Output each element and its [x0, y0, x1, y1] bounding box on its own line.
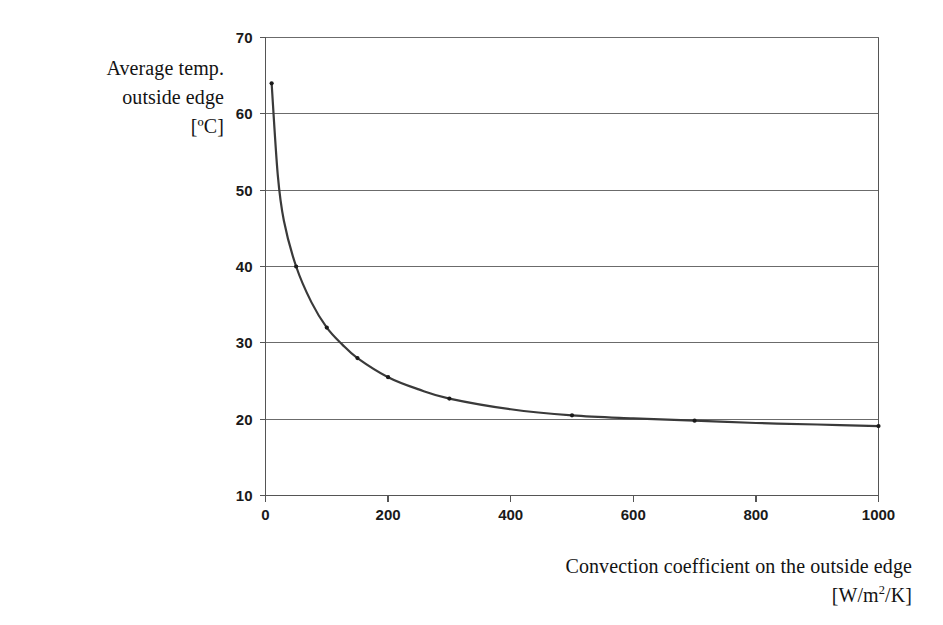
data-point-marker	[294, 264, 298, 268]
tick-marks-group	[260, 38, 879, 502]
y-tick-label: 70	[236, 29, 253, 46]
data-point-marker	[693, 419, 697, 423]
gridlines-group	[266, 38, 879, 496]
tick-labels-group: 1020304050607002004006008001000	[236, 29, 895, 523]
data-point-marker	[355, 356, 359, 360]
series-line	[272, 83, 879, 426]
data-point-marker	[570, 413, 574, 417]
x-tick-label: 600	[621, 506, 646, 523]
plot-area: 1020304050607002004006008001000	[0, 0, 943, 625]
y-tick-label: 40	[236, 258, 253, 275]
figure-container: Average temp. outside edge [ºC] Convecti…	[0, 0, 943, 625]
y-tick-label: 60	[236, 105, 253, 122]
x-tick-label: 0	[261, 506, 269, 523]
data-point-marker	[447, 396, 451, 400]
y-tick-label: 30	[236, 334, 253, 351]
y-tick-label: 20	[236, 411, 253, 428]
x-tick-label: 200	[376, 506, 401, 523]
y-tick-label: 10	[236, 487, 253, 504]
x-tick-label: 400	[498, 506, 523, 523]
x-tick-label: 1000	[862, 506, 895, 523]
data-point-marker	[386, 375, 390, 379]
series-marker-group	[270, 81, 881, 428]
y-tick-label: 50	[236, 182, 253, 199]
data-point-marker	[270, 81, 274, 85]
x-tick-label: 800	[743, 506, 768, 523]
line-chart-svg: 1020304050607002004006008001000	[0, 0, 943, 625]
data-point-marker	[325, 325, 329, 329]
data-point-marker	[876, 424, 880, 428]
series-line-group	[272, 83, 879, 426]
